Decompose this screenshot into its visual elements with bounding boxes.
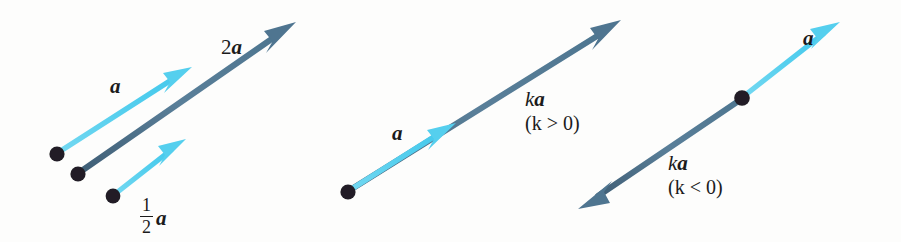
- label-vector-ka-negative: ka (k < 0): [668, 152, 723, 199]
- label-k-condition: (k < 0): [668, 176, 723, 199]
- tail-dot: [734, 90, 750, 106]
- label-vector-half-a: 1 2 a: [140, 196, 167, 237]
- arrow-a-panel2: [350, 123, 456, 190]
- label-vector-a-panel3: a: [803, 28, 814, 49]
- label-half-a-vector-glyph: a: [156, 206, 167, 230]
- fraction-one-half: 1 2: [140, 196, 153, 237]
- label-k-condition: (k > 0): [525, 112, 580, 135]
- label-a-glyph: a: [534, 87, 545, 111]
- label-2a-coefficient: 2: [221, 35, 232, 59]
- label-ka-expression: ka: [668, 152, 723, 176]
- label-a-glyph: a: [677, 151, 688, 175]
- label-vector-ka-positive: ka (k > 0): [525, 88, 580, 135]
- label-a-glyph: a: [110, 74, 121, 98]
- tail-dot: [340, 184, 355, 199]
- label-vector-2a: 2a: [221, 37, 242, 58]
- label-ka-expression: ka: [525, 88, 580, 112]
- tail-dot: [70, 166, 85, 181]
- label-a-glyph: a: [803, 26, 814, 50]
- panel-scaled-copies: [49, 22, 296, 203]
- vector-scalar-multiplication-figure: a 2a 1 2 a a ka (k > 0) a ka (k < 0): [0, 0, 901, 242]
- tail-dot: [106, 189, 121, 204]
- fraction-denominator: 2: [140, 218, 153, 237]
- arrow-a-panel3: [744, 22, 840, 96]
- arrow-half-a: [115, 139, 186, 194]
- label-2a-vector-glyph: a: [232, 35, 243, 59]
- figure-canvas: [0, 0, 901, 242]
- tail-dot: [49, 146, 64, 161]
- label-a-glyph: a: [392, 121, 403, 145]
- label-vector-a-panel1: a: [110, 76, 121, 97]
- fraction-numerator: 1: [140, 196, 153, 215]
- label-k-glyph: k: [668, 151, 677, 175]
- label-vector-a-panel2: a: [392, 123, 403, 144]
- label-k-glyph: k: [525, 87, 534, 111]
